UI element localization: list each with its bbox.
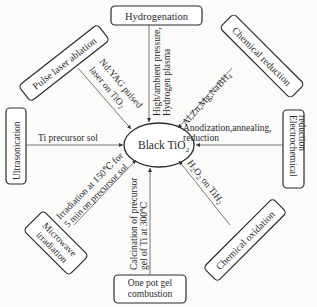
microwave-condition-1: Irradiation at 150℃ for <box>54 150 125 221</box>
chemical-oxidation-arrow <box>179 161 230 225</box>
chemical-reduction-condition: Al,Zn,Mg,NaBH4 <box>180 70 234 128</box>
electrochemical-condition-2: reduction <box>183 133 219 143</box>
one-pot-label-2: combustion <box>128 289 173 299</box>
method-microwave-irradiation: Microwave irradiation Irradiation at 150… <box>23 150 136 275</box>
method-chemical-oxidation: Chemical oxidation H2O2 on TiH2 <box>179 158 287 282</box>
one-pot-condition-1: Calcination of precursor <box>129 177 139 270</box>
hydrogenation-label: Hydrogenation <box>125 11 189 22</box>
ultrasonication-condition: Ti precursor sol <box>38 133 98 143</box>
electrochemical-label-2b: reduction <box>297 115 307 151</box>
diagram-canvas: Black TiO2 Hydrogenation High/ambient pr… <box>0 0 317 307</box>
hydrogenation-condition-2: Hydrogen plasma <box>162 48 172 116</box>
method-hydrogenation: Hydrogenation High/ambient pressure, Hyd… <box>111 6 202 122</box>
electrochemical-label-1: Electrochemical <box>288 115 298 177</box>
electrochemical-condition-1: Anodization,annealing, <box>183 123 272 133</box>
chemical-oxidation-condition: H2O2 on TiH2 <box>185 158 226 206</box>
chemical-reduction-label: Chemical reduction <box>230 25 293 88</box>
chemical-oxidation-label: Chemical oxidation <box>214 209 277 272</box>
method-pulse-laser-ablation: Pulse laser ablation Nd:YAG pulsed laser… <box>18 24 144 129</box>
one-pot-condition-2: gel of Ti at 300℃ <box>139 201 149 270</box>
hydrogenation-condition-1: High/ambient pressure, <box>152 27 162 116</box>
method-one-pot-gel-combustion: One pot gel combustion Calcination of pr… <box>114 168 186 303</box>
one-pot-label-1: One pot gel <box>128 278 173 288</box>
pulse-laser-label: Pulse laser ablation <box>30 35 98 92</box>
ultrasonication-label: Ultrasonication <box>12 121 22 180</box>
